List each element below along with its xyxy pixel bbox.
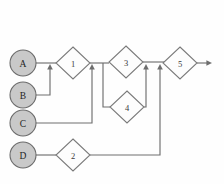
flow-diagram-canvas: ABCD12345: [0, 0, 224, 184]
process-node-shape: [110, 91, 144, 123]
process-node-shape: [163, 47, 197, 79]
process-node-2[interactable]: 2: [56, 139, 90, 171]
source-node-shape: [10, 110, 36, 136]
flow-diagram-svg: ABCD12345: [0, 0, 224, 184]
link-b-to-trunk: [36, 64, 53, 95]
process-node-5[interactable]: 5: [163, 47, 197, 79]
process-node-shape: [56, 139, 90, 171]
link-4-to-merge: [143, 64, 149, 107]
link-c-to-trunk: [36, 64, 95, 123]
link-5-output: [197, 60, 212, 66]
source-node-c[interactable]: C: [10, 110, 36, 136]
process-node-4[interactable]: 4: [110, 91, 144, 123]
link-arrowhead: [47, 64, 53, 70]
link-arrowhead: [89, 64, 95, 70]
figure-caption: [0, 172, 224, 184]
link-3-branch-in: [103, 63, 110, 107]
source-node-d[interactable]: D: [10, 142, 36, 168]
process-node-3[interactable]: 3: [109, 46, 143, 78]
link-arrowhead: [157, 64, 163, 70]
link-path: [144, 68, 146, 107]
source-node-shape: [10, 142, 36, 168]
link-path: [36, 68, 50, 95]
process-node-shape: [56, 47, 90, 79]
link-arrowhead: [206, 60, 212, 66]
source-node-shape: [10, 82, 36, 108]
link-path: [103, 63, 110, 107]
source-node-shape: [10, 50, 36, 76]
process-node-1[interactable]: 1: [56, 47, 90, 79]
source-node-b[interactable]: B: [10, 82, 36, 108]
process-node-shape: [109, 46, 143, 78]
link-arrowhead: [143, 64, 149, 70]
source-node-a[interactable]: A: [10, 50, 36, 76]
